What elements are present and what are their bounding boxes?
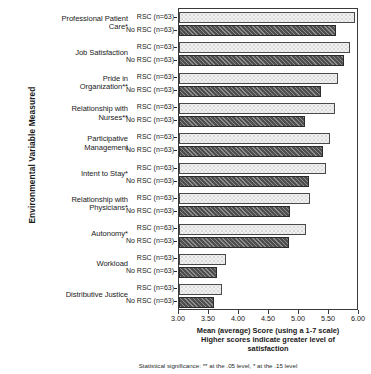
category-label-line: Distributive Justice <box>18 291 128 300</box>
category-label: Autonomy* <box>18 230 128 239</box>
series-label: RSC (n=63) <box>124 284 174 292</box>
x-axis-tick-label: 3.00 <box>163 314 193 323</box>
series-label: RSC (n=63) <box>124 13 174 21</box>
series-label: No RSC (n=63) <box>124 297 174 305</box>
series-tick <box>174 198 177 199</box>
x-axis-title-line3: satisfaction <box>168 344 368 353</box>
series-tick <box>174 137 177 138</box>
category-label: Professional PatientCare* <box>18 15 128 32</box>
series-label: No RSC (n=63) <box>124 146 174 154</box>
series-tick <box>174 60 177 61</box>
series-tick <box>174 90 177 91</box>
series-tick <box>174 77 177 78</box>
bar-rsc <box>179 163 326 174</box>
bar-no-rsc <box>179 267 217 278</box>
category-label-line: Job Satisfaction <box>18 49 128 58</box>
x-axis-tick-label: 5.00 <box>283 314 313 323</box>
category-label: Relationship withNurses** <box>18 105 128 122</box>
x-axis-tick-label: 5.50 <box>313 314 343 323</box>
bar-no-rsc <box>179 176 309 187</box>
series-label: RSC (n=63) <box>124 43 174 51</box>
bar-no-rsc <box>179 116 305 127</box>
category-label-column: Professional PatientCare*Job Satisfactio… <box>18 8 128 310</box>
bar-no-rsc <box>179 146 323 157</box>
series-tick <box>174 211 177 212</box>
category-label: Intent to Stay* <box>18 170 128 179</box>
series-label: No RSC (n=63) <box>124 26 174 34</box>
significance-footnote: Statistical significance: ** at the .05 … <box>88 362 348 369</box>
series-label: RSC (n=63) <box>124 73 174 81</box>
bar-no-rsc <box>179 55 344 66</box>
category-label: Pride inOrganization** <box>18 75 128 92</box>
series-tick <box>174 228 177 229</box>
bar-rsc <box>179 73 338 84</box>
series-tick <box>174 107 177 108</box>
series-label: No RSC (n=63) <box>124 267 174 275</box>
chart-figure: Environmental Variable Measured Professi… <box>0 0 371 374</box>
series-tick <box>174 301 177 302</box>
x-axis-title: Mean (average) Score (using a 1-7 scale)… <box>168 326 368 353</box>
bar-rsc <box>179 42 350 53</box>
series-tick <box>174 258 177 259</box>
bar-no-rsc <box>179 25 336 36</box>
series-label: No RSC (n=63) <box>124 207 174 215</box>
bar-rsc <box>179 284 222 295</box>
bar-rsc <box>179 254 226 265</box>
x-axis-tick-label: 6.00 <box>343 314 371 323</box>
bar-rsc <box>179 103 335 114</box>
series-tick <box>174 30 177 31</box>
series-tick <box>174 47 177 48</box>
series-label: No RSC (n=63) <box>124 56 174 64</box>
series-label: RSC (n=63) <box>124 164 174 172</box>
category-label-line: Organization** <box>18 83 128 92</box>
series-tick <box>174 17 177 18</box>
series-label: RSC (n=63) <box>124 133 174 141</box>
series-label: RSC (n=63) <box>124 194 174 202</box>
bar-no-rsc <box>179 297 214 308</box>
bar-rsc <box>179 133 330 144</box>
x-axis-tick-label: 4.50 <box>253 314 283 323</box>
x-axis-tick-label: 4.00 <box>223 314 253 323</box>
series-label: RSC (n=63) <box>124 224 174 232</box>
bar-no-rsc <box>179 237 289 248</box>
series-tick <box>174 181 177 182</box>
bar-rsc <box>179 224 306 235</box>
bar-no-rsc <box>179 206 290 217</box>
bar-no-rsc <box>179 86 321 97</box>
category-label: Relationship withPhysicians* <box>18 196 128 213</box>
category-label-line: Autonomy* <box>18 230 128 239</box>
bar-rsc <box>179 193 310 204</box>
series-label: No RSC (n=63) <box>124 177 174 185</box>
series-tick <box>174 288 177 289</box>
series-tick <box>174 120 177 121</box>
category-label-line: Physicians* <box>18 204 128 213</box>
series-label: No RSC (n=63) <box>124 116 174 124</box>
series-label: RSC (n=63) <box>124 254 174 262</box>
series-tick <box>174 150 177 151</box>
series-tick <box>174 168 177 169</box>
x-axis: 3.003.504.004.505.005.506.00 <box>178 310 358 324</box>
x-axis-tick-label: 3.50 <box>193 314 223 323</box>
series-label: No RSC (n=63) <box>124 237 174 245</box>
series-label: No RSC (n=63) <box>124 86 174 94</box>
category-label: Distributive Justice <box>18 291 128 300</box>
category-label-line: Intent to Stay* <box>18 170 128 179</box>
category-label: Workload <box>18 260 128 269</box>
x-axis-title-line1: Mean (average) Score (using a 1-7 scale) <box>168 326 368 335</box>
bar-rsc <box>179 12 355 23</box>
category-label-line: Care* <box>18 23 128 32</box>
category-label-line: Management <box>18 144 128 153</box>
category-label: Job Satisfaction <box>18 49 128 58</box>
series-label-column: RSC (n=63)No RSC (n=63)RSC (n=63)No RSC … <box>126 8 176 310</box>
series-label: RSC (n=63) <box>124 103 174 111</box>
plot-area <box>178 8 358 310</box>
series-tick <box>174 271 177 272</box>
series-tick <box>174 241 177 242</box>
category-label-line: Nurses** <box>18 114 128 123</box>
x-axis-title-line2: Higher scores indicate greater level of <box>168 335 368 344</box>
category-label: ParticipativeManagement <box>18 135 128 152</box>
category-label-line: Workload <box>18 260 128 269</box>
